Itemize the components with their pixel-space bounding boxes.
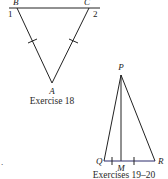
caption-exercise-18: Exercise 18 — [30, 96, 75, 106]
label-angle-2: 2 — [93, 9, 98, 19]
segment-ca — [52, 8, 89, 83]
geometry-figures: B C 1 2 A Exercise 18 P Q R M Exercises … — [0, 0, 168, 179]
figure-exercise-18: B C 1 2 A Exercise 18 — [8, 0, 100, 106]
label-a: A — [48, 86, 55, 96]
label-c: C — [84, 0, 91, 7]
label-r: R — [157, 156, 164, 166]
tick-mark-ba — [28, 39, 37, 43]
segment-ba — [17, 8, 52, 83]
segment-pr — [121, 75, 155, 161]
label-b: B — [13, 0, 19, 7]
label-q: Q — [96, 156, 103, 166]
figure-exercises-19-20: P Q R M Exercises 19–20 — [93, 62, 164, 179]
caption-exercises-19-20: Exercises 19–20 — [93, 170, 156, 179]
stray-period-mark: . — [1, 157, 3, 167]
label-angle-1: 1 — [8, 9, 13, 19]
label-p: P — [117, 62, 124, 72]
segment-pq — [104, 75, 121, 161]
